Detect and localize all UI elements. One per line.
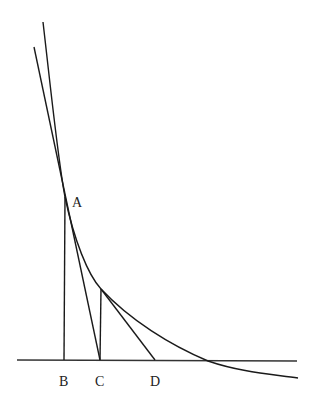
tangent-line-a-c bbox=[34, 47, 100, 360]
label-c: C bbox=[95, 374, 104, 389]
perpendicular-p-c bbox=[100, 289, 101, 360]
label-b: B bbox=[59, 374, 68, 389]
label-a: A bbox=[72, 195, 83, 210]
diagram-canvas: A B C D bbox=[0, 0, 315, 416]
perpendicular-a-b bbox=[64, 197, 65, 360]
label-d: D bbox=[150, 374, 160, 389]
horizontal-axis bbox=[17, 360, 297, 361]
tangent-line-p-d bbox=[101, 289, 155, 360]
